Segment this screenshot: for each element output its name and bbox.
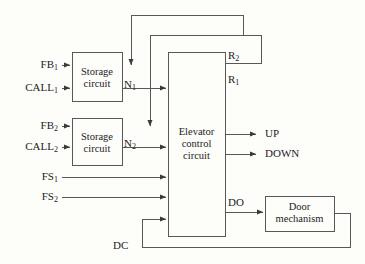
- input-label-fs1: FS1: [0, 171, 58, 184]
- call2-sub: 2: [54, 145, 58, 154]
- signal-label-n2: N2: [124, 138, 136, 151]
- n1-text: N: [124, 78, 132, 90]
- block-label-storage-circuit-1: Storage circuit: [72, 66, 122, 90]
- block-label-elevator-control-circuit: Elevator control circuit: [168, 126, 225, 162]
- signal-label-r1: R1: [228, 74, 239, 87]
- signal-label-do: DO: [228, 197, 244, 208]
- elevator-control-block-diagram: Storage circuit Storage circuit Elevator…: [0, 0, 365, 264]
- r1-sub: 1: [235, 78, 239, 87]
- fb2-text: FB: [41, 119, 54, 131]
- door-line2: mechanism: [276, 213, 324, 224]
- fb2-sub: 2: [54, 124, 58, 133]
- n2-text: N: [124, 137, 132, 149]
- n1-sub: 1: [132, 83, 136, 92]
- input-label-call1: CALL1: [0, 82, 58, 95]
- output-label-down: DOWN: [265, 148, 299, 159]
- call2-text: CALL: [25, 140, 54, 152]
- output-label-up: UP: [265, 128, 279, 139]
- fs2-text: FS: [42, 190, 54, 202]
- elevator-line2: control: [182, 138, 212, 149]
- input-label-fb1: FB1: [0, 59, 58, 72]
- block-label-door-mechanism: Door mechanism: [265, 201, 334, 225]
- block-label-storage-circuit-2: Storage circuit: [72, 131, 122, 155]
- call1-text: CALL: [25, 81, 54, 93]
- r2-sub: 2: [235, 54, 239, 63]
- fb1-sub: 1: [54, 63, 58, 72]
- call1-sub: 1: [54, 86, 58, 95]
- storage1-line1: Storage: [81, 66, 113, 77]
- storage2-line2: circuit: [84, 143, 111, 154]
- elevator-line1: Elevator: [179, 126, 215, 137]
- elevator-line3: circuit: [183, 150, 210, 161]
- signal-label-dc: DC: [113, 240, 128, 251]
- door-line1: Door: [289, 201, 311, 212]
- n2-sub: 2: [132, 142, 136, 151]
- signal-label-n1: N1: [124, 79, 136, 92]
- fs2-sub: 2: [54, 195, 58, 204]
- fb1-text: FB: [41, 58, 54, 70]
- input-label-fb2: FB2: [0, 120, 58, 133]
- fs1-text: FS: [42, 170, 54, 182]
- wire-r1-feedback: [150, 35, 261, 126]
- storage1-line2: circuit: [84, 78, 111, 89]
- storage2-line1: Storage: [81, 131, 113, 142]
- input-label-fs2: FS2: [0, 191, 58, 204]
- input-label-call2: CALL2: [0, 141, 58, 154]
- signal-label-r2: R2: [228, 50, 239, 63]
- wire-r2-feedback: [131, 15, 243, 65]
- fs1-sub: 1: [54, 175, 58, 184]
